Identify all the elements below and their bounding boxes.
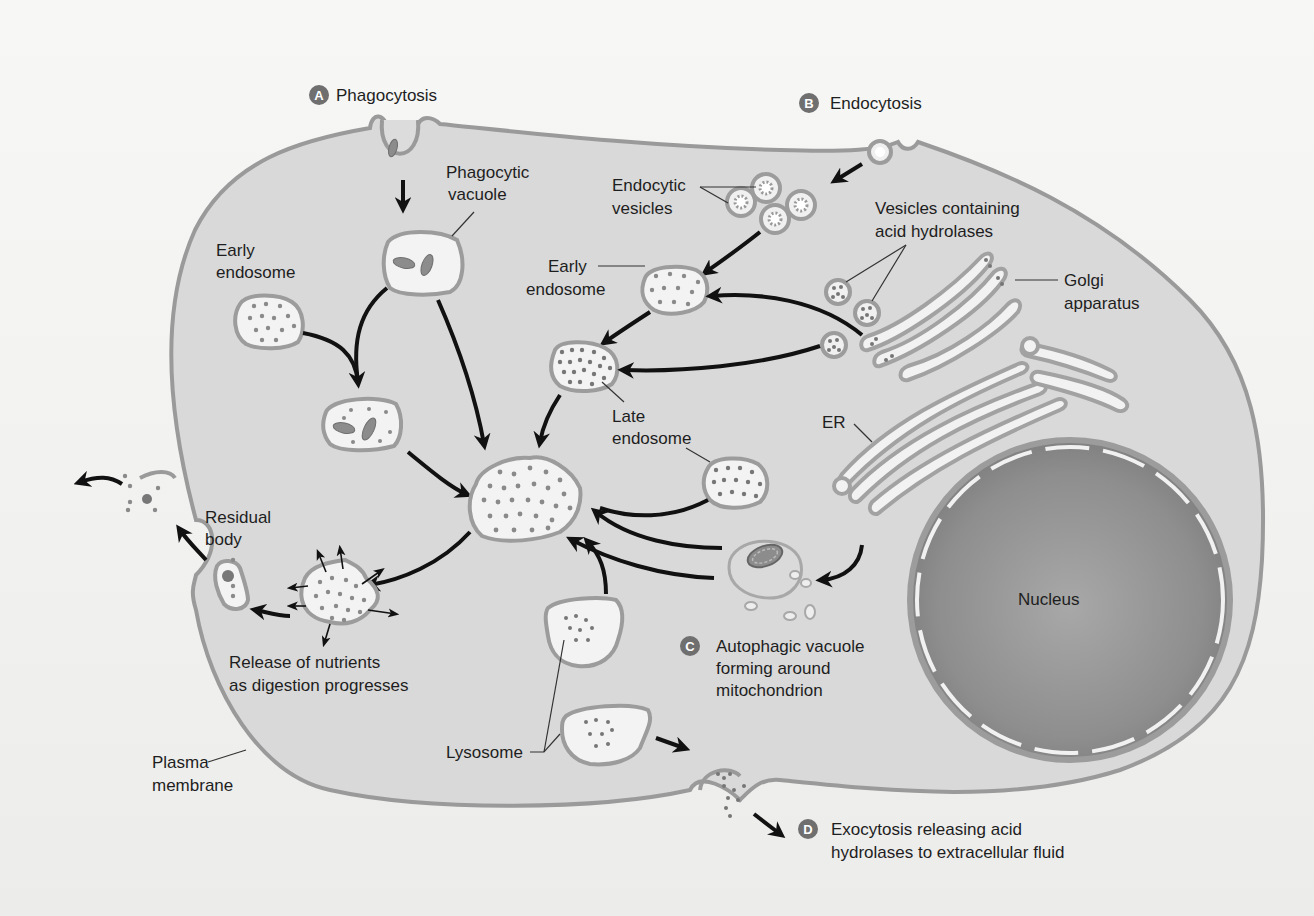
label-early-endosome-left-2: endosome — [216, 263, 295, 282]
process-b-label: B Endocytosis — [799, 93, 922, 113]
svg-text:Endocytosis: Endocytosis — [830, 94, 922, 113]
label-golgi-1: Golgi — [1064, 271, 1104, 290]
label-early-endosome-right-2: endosome — [526, 280, 605, 299]
label-plasma-membrane-1: Plasma — [152, 753, 209, 772]
label-hydrolase-vesicles-2: acid hydrolases — [875, 222, 993, 241]
label-nucleus: Nucleus — [1018, 590, 1079, 609]
label-er: ER — [822, 413, 846, 432]
label-endocytic-vesicles-2: vesicles — [612, 199, 672, 218]
label-release-nutrients-1: Release of nutrients — [229, 653, 380, 672]
label-late-endosome-1: Late — [612, 407, 645, 426]
phagolysosome — [323, 399, 401, 450]
primary-lysosome-upper — [546, 598, 623, 666]
svg-text:Exocytosis releasing acid: Exocytosis releasing acid — [831, 820, 1022, 839]
svg-text:Phagocytosis: Phagocytosis — [336, 86, 437, 105]
svg-text:Autophagic vacuole: Autophagic vacuole — [716, 637, 864, 656]
label-plasma-membrane-2: membrane — [152, 776, 233, 795]
svg-text:C: C — [685, 639, 695, 654]
label-phagocytic-vacuole-2: vacuole — [448, 185, 507, 204]
svg-text:D: D — [803, 822, 812, 837]
label-hydrolase-vesicles-1: Vesicles containing — [875, 199, 1020, 218]
label-residual-body-1: Residual — [205, 508, 271, 527]
label-lysosome: Lysosome — [446, 743, 523, 762]
svg-text:B: B — [804, 96, 813, 111]
secondary-lysosome — [470, 457, 581, 540]
label-residual-body-2: body — [205, 530, 242, 549]
residual-exocytosis — [80, 472, 175, 512]
label-release-nutrients-2: as digestion progresses — [229, 676, 409, 695]
label-early-endosome-right-1: Early — [548, 257, 587, 276]
cell-diagram: A Phagocytosis B Endocytosis C Autophagi… — [0, 0, 1314, 916]
label-early-endosome-left-1: Early — [216, 241, 255, 260]
process-a-label: A Phagocytosis — [309, 85, 437, 105]
label-endocytic-vesicles-1: Endocytic — [612, 176, 686, 195]
process-d-label: D Exocytosis releasing acid hydrolases t… — [798, 819, 1064, 862]
label-phagocytic-vacuole-1: Phagocytic — [446, 163, 530, 182]
early-endosome-left — [235, 296, 303, 349]
svg-text:A: A — [314, 88, 324, 103]
svg-text:mitochondrion: mitochondrion — [716, 681, 823, 700]
label-golgi-2: apparatus — [1064, 294, 1140, 313]
svg-text:hydrolases to extracellular fl: hydrolases to extracellular fluid — [831, 843, 1064, 862]
label-late-endosome-2: endosome — [612, 429, 691, 448]
svg-text:forming around: forming around — [716, 659, 830, 678]
